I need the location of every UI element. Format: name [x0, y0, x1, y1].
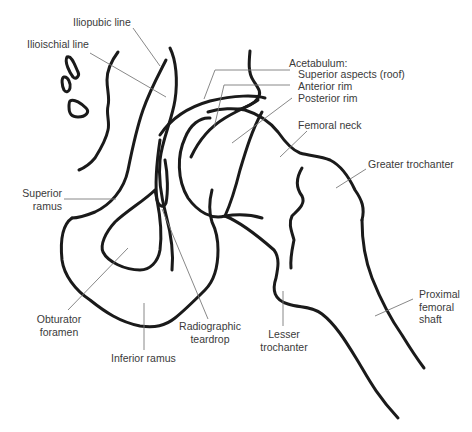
femur-medial-outline	[225, 216, 398, 418]
pelvis-outline	[61, 190, 218, 327]
hip-anatomy-diagram	[0, 0, 472, 432]
label-ilioischial-line: Ilioischial line	[27, 38, 89, 51]
label-superior-ramus: Superior ramus	[12, 187, 62, 212]
label-acetabulum-anterior-rim: Anterior rim	[298, 80, 352, 93]
label-lesser-trochanter: Lesser trochanter	[254, 328, 314, 353]
label-acetabulum-superior: Superior aspects (roof)	[298, 68, 405, 81]
label-greater-trochanter: Greater trochanter	[368, 158, 454, 171]
ilium-outline	[79, 52, 118, 170]
femoral-head	[179, 112, 262, 217]
label-femoral-neck: Femoral neck	[298, 119, 362, 132]
label-proximal-femoral-shaft: Proximal femoral shaft	[419, 288, 460, 326]
sacrum-fragments	[62, 57, 87, 117]
label-inferior-ramus: Inferior ramus	[111, 352, 176, 365]
femur-lateral-outline	[362, 220, 424, 368]
label-acetabulum-posterior-rim: Posterior rim	[298, 92, 358, 105]
label-iliopubic-line: Iliopubic line	[73, 16, 131, 29]
label-radiographic-teardrop: Radiographic teardrop	[172, 320, 248, 345]
intertrochanteric-crest	[290, 168, 303, 268]
label-obturator-foramen: Obturator foramen	[24, 313, 94, 338]
